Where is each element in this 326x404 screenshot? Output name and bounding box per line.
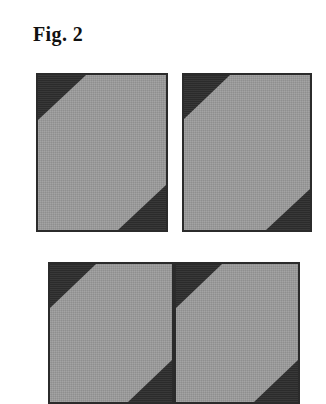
figure-panel-top-right: [182, 73, 312, 232]
figure-label: Fig. 2: [33, 24, 83, 44]
figure-panel-bottom-left: [48, 262, 174, 404]
figure-page: Fig. 2: [0, 0, 326, 404]
figure-panel-top-left: [36, 73, 168, 232]
figure-panel-bottom-right: [174, 262, 300, 404]
